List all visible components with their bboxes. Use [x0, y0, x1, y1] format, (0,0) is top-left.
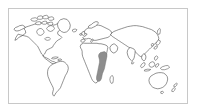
landmass-arctic-islands-b: [37, 16, 43, 19]
landmass-arctic-islands-c: [43, 15, 49, 18]
landmass-hispaniola: [58, 59, 61, 60]
landmass-borneo: [149, 62, 155, 67]
landmass-sri-lanka: [132, 62, 134, 64]
world-map-svg: [9, 9, 187, 103]
landmass-sulawesi: [155, 64, 158, 67]
landmass-arctic-islands-g: [48, 22, 53, 25]
landmass-alaska: [14, 25, 25, 31]
landmass-sumatra: [141, 63, 145, 68]
landmass-arabia: [110, 44, 118, 53]
landmass-arctic-islands-e: [35, 22, 41, 25]
landmass-java: [144, 69, 150, 71]
landmass-australia: [149, 73, 168, 89]
landmass-south-america: [48, 61, 69, 96]
landmass-italy: [91, 39, 93, 42]
landmass-arctic-islands-f: [42, 21, 47, 24]
landmass-iberia: [81, 39, 85, 42]
landmass-arctic-islands-a: [31, 18, 38, 21]
landmass-arctic-islands-d: [48, 17, 54, 20]
landmass-new-zealand-south: [172, 88, 175, 92]
landmass-japan-south: [154, 46, 157, 49]
landmass-kamchatka: [157, 29, 160, 35]
landmass-iceland: [72, 29, 76, 32]
landmass-ireland: [80, 33, 82, 35]
landmass-madagascar: [110, 76, 113, 84]
landmass-india: [127, 48, 135, 61]
landmass-cuba: [52, 57, 58, 59]
landmass-indochina: [142, 54, 146, 61]
world-map-figure: [0, 0, 197, 112]
landmass-philippines: [154, 56, 157, 60]
landmass-tasmania: [161, 91, 163, 93]
landmass-central-america: [43, 56, 56, 65]
landmass-great-britain: [82, 32, 85, 36]
map-frame: [8, 8, 188, 104]
landmass-europe: [83, 25, 112, 40]
great-lakes: [45, 37, 51, 40]
landmass-new-guinea: [160, 66, 169, 70]
landmass-new-zealand-north: [174, 83, 177, 86]
